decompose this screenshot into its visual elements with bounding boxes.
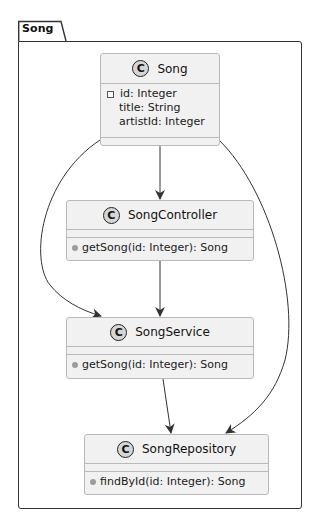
class-attributes [67,230,253,238]
attribute-text: title: String [119,101,181,115]
class-c-icon: C [117,441,134,458]
class-attributes [67,347,253,355]
class-methods: getSong(id: Integer): Song [67,355,253,375]
class-header: C SongController [67,201,253,230]
uml-canvas: Song C Song id: Integer tit [0,0,319,526]
class-attributes [85,464,268,472]
class-methods: findById(id: Integer): Song [85,472,268,492]
public-visibility-icon [72,245,78,251]
class-header: C SongService [67,318,253,347]
class-methods: getSong(id: Integer): Song [67,238,253,258]
arrow-service-to-repository [163,379,171,433]
class-c-icon: C [103,207,120,224]
class-header: C SongRepository [85,435,268,464]
class-name: SongService [135,325,210,339]
method-row: findById(id: Integer): Song [90,475,263,489]
class-name: SongRepository [142,442,236,456]
attribute-row: artistId: Integer [119,115,213,129]
public-visibility-icon [72,362,78,368]
attribute-text: artistId: Integer [119,115,205,129]
class-songcontroller[interactable]: C SongController getSong(id: Integer): S… [66,200,254,261]
class-c-icon: C [110,324,127,341]
class-name: SongController [128,208,217,222]
arrow-song-to-repository [219,140,289,433]
class-methods [101,138,219,145]
method-text: getSong(id: Integer): Song [82,358,228,372]
class-header: C Song [101,54,219,84]
private-visibility-icon [107,91,114,98]
class-c-icon: C [132,60,149,77]
class-attributes: id: Integer title: String artistId: Inte… [101,84,219,138]
class-song[interactable]: C Song id: Integer title: String artistI… [100,53,220,146]
attribute-row: title: String [119,101,213,115]
attribute-text: id: Integer [120,87,177,101]
class-songservice[interactable]: C SongService getSong(id: Integer): Song [66,317,254,379]
method-row: getSong(id: Integer): Song [72,358,248,372]
class-name: Song [157,62,187,76]
attribute-row: id: Integer [107,87,213,101]
method-text: findById(id: Integer): Song [100,475,245,489]
class-songrepository[interactable]: C SongRepository findById(id: Integer): … [84,434,269,495]
public-visibility-icon [90,479,96,485]
method-row: getSong(id: Integer): Song [72,241,248,255]
method-text: getSong(id: Integer): Song [82,241,228,255]
